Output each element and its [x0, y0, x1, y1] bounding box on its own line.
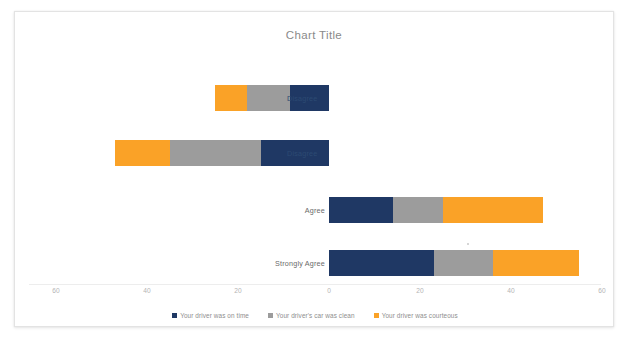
legend-label: Your driver's car was clean	[276, 312, 355, 319]
chart-card: Chart Title DisagreeDisagreeAgreeStrongl…	[14, 11, 614, 327]
bar-segment[interactable]	[434, 250, 493, 276]
category-label: Agree	[305, 206, 325, 215]
axis-line	[29, 284, 601, 285]
chart-legend: Your driver was on timeYour driver's car…	[15, 308, 615, 322]
chart-title: Chart Title	[15, 29, 613, 41]
category-label: Strongly Agree	[275, 259, 325, 268]
stray-marker	[467, 243, 469, 245]
axis-tick-label: 40	[143, 287, 150, 294]
axis-tick-label: 0	[327, 287, 331, 294]
bar-segment[interactable]	[443, 197, 543, 223]
legend-label: Your driver was on time	[180, 312, 249, 319]
legend-label: Your driver was courteous	[382, 312, 458, 319]
axis-tick-label: 60	[52, 287, 59, 294]
bar-segment[interactable]	[170, 140, 261, 166]
axis-tick-label: 60	[598, 287, 605, 294]
legend-swatch-icon	[374, 313, 379, 318]
category-label: Disagree	[287, 94, 317, 103]
legend-item[interactable]: Your driver was courteous	[374, 312, 458, 319]
bar-row[interactable]: Disagree	[15, 85, 615, 111]
axis-tick-label: 20	[416, 287, 423, 294]
legend-swatch-icon	[172, 313, 177, 318]
bar-segment[interactable]	[393, 197, 443, 223]
legend-swatch-icon	[268, 313, 273, 318]
bar-row[interactable]: Disagree	[15, 140, 615, 166]
category-label: Disagree	[287, 149, 317, 158]
bar-row[interactable]: Strongly Agree	[15, 250, 615, 276]
legend-item[interactable]: Your driver's car was clean	[268, 312, 355, 319]
bar-segment[interactable]	[215, 85, 247, 111]
x-axis: 6040200204060	[15, 284, 615, 300]
bar-row[interactable]: Agree	[15, 197, 615, 223]
bar-segment[interactable]	[247, 85, 290, 111]
axis-tick-label: 40	[507, 287, 514, 294]
bar-segment[interactable]	[329, 197, 393, 223]
legend-item[interactable]: Your driver was on time	[172, 312, 249, 319]
bar-segment[interactable]	[493, 250, 579, 276]
axis-tick-label: 20	[234, 287, 241, 294]
bar-segment[interactable]	[329, 250, 434, 276]
bar-segment[interactable]	[115, 140, 170, 166]
plot-area: DisagreeDisagreeAgreeStrongly Agree	[15, 56, 615, 281]
